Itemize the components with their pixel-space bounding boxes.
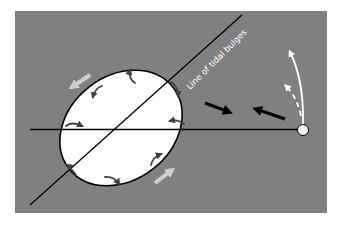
tidal-bulge-diagram: Line of tidal bulges xyxy=(0,0,340,227)
moon xyxy=(298,125,309,136)
